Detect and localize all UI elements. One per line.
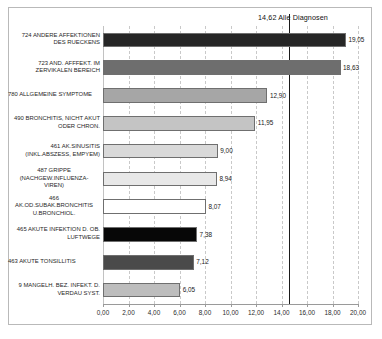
bar-value-label: 18,63	[343, 64, 359, 71]
x-axis-tick	[256, 304, 257, 307]
x-axis-tick-label: 10,00	[223, 309, 239, 316]
category-label: 465 AKUTE INFEKTION D. OB. LUFTWEGE	[8, 226, 100, 241]
category-label: 466 AK.OD.SUBAK.BRONCHITIS U.BRONCHIOL.	[8, 195, 100, 218]
x-axis-tick	[129, 304, 130, 307]
category-label: 9 MANGELH. BEZ. INFEKT. D. VERDAU SYST.	[8, 282, 100, 297]
x-axis-tick	[282, 304, 283, 307]
x-axis-tick	[358, 304, 359, 307]
bar	[103, 144, 218, 159]
x-axis-tick-label: 6,00	[173, 309, 185, 316]
bar	[103, 255, 194, 270]
bar	[103, 88, 267, 103]
bar-value-label: 11,95	[258, 119, 274, 126]
bar-value-label: 8,94	[219, 175, 231, 182]
bar-value-label: 6,05	[183, 286, 195, 293]
x-axis-tick-label: 0,00	[97, 309, 109, 316]
x-axis-tick	[180, 304, 181, 307]
x-axis-tick-label: 4,00	[148, 309, 160, 316]
x-axis-tick-label: 18,00	[325, 309, 341, 316]
category-label: 490 BRONCHITIS, NICHT AKUT ODER CHRON.	[8, 115, 100, 130]
bar-value-label: 8,07	[208, 203, 220, 210]
x-axis-tick	[154, 304, 155, 307]
horizontal-bar-chart: 14,62 Alle Diagnosen 0,002,004,006,008,0…	[0, 0, 382, 339]
plot-area	[103, 26, 358, 304]
x-axis-tick	[307, 304, 308, 307]
bar	[103, 283, 180, 298]
x-axis-tick-label: 2,00	[122, 309, 134, 316]
average-reference-line	[289, 14, 290, 304]
x-axis-tick-label: 8,00	[199, 309, 211, 316]
category-label: 463 AKUTE TONSILLITIS	[8, 258, 100, 266]
average-line-label: 14,62 Alle Diagnosen	[258, 13, 328, 22]
category-label: 724 ANDERE AFFEKTIONEN DES RUECKENS	[8, 32, 100, 47]
category-label: 723 AND. AFFFEKT. IM ZERVIKALEN BEREICH	[8, 60, 100, 75]
x-axis-tick-label: 14,00	[274, 309, 290, 316]
category-label: 780 ALLGEMEINE SYMPTOME	[8, 91, 100, 99]
bar-value-label: 12,90	[270, 92, 286, 99]
bar-value-label: 9,00	[220, 147, 232, 154]
bar	[103, 33, 346, 48]
x-axis-tick	[333, 304, 334, 307]
bar	[103, 199, 206, 214]
x-axis-tick-label: 16,00	[299, 309, 315, 316]
bar	[103, 172, 217, 187]
x-axis-tick	[103, 304, 104, 307]
category-label: 461 AK.SINUSITIS (INKL.ABSZESS, EMPYEM)	[8, 143, 100, 158]
bar-value-label: 7,38	[200, 231, 212, 238]
x-axis-tick-label: 12,00	[248, 309, 264, 316]
x-axis-tick-label: 20,00	[350, 309, 366, 316]
bar	[103, 116, 255, 131]
x-axis-tick	[205, 304, 206, 307]
bar	[103, 60, 341, 75]
bar	[103, 227, 197, 242]
category-label: 487 GRIPPE (NACHGEW.INFLUENZA- VIREN)	[8, 167, 100, 190]
bar-value-label: 19,05	[348, 36, 364, 43]
x-axis-tick	[231, 304, 232, 307]
bar-value-label: 7,12	[196, 258, 208, 265]
